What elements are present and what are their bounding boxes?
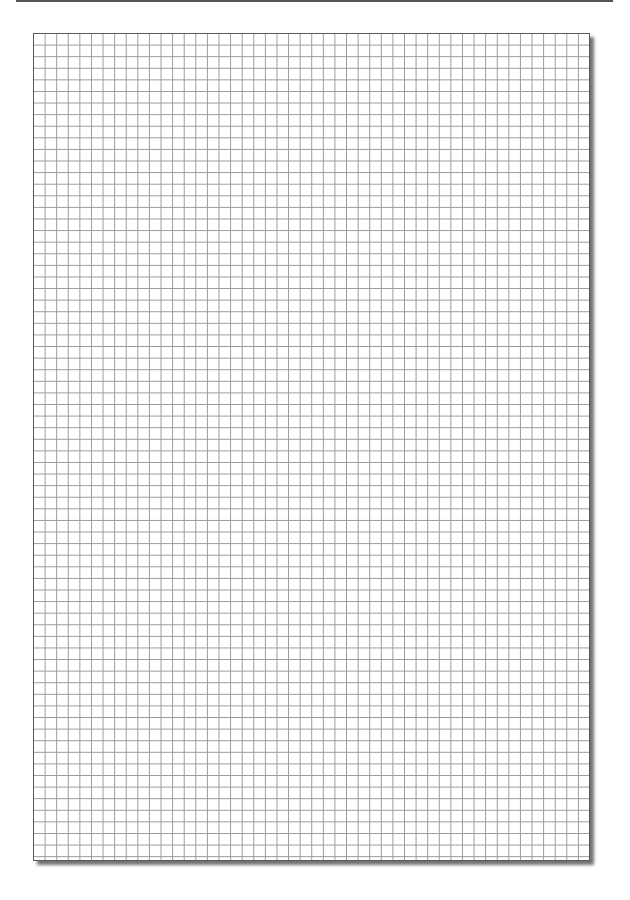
header-rule: [16, 0, 613, 2]
graph-paper-grid: [33, 33, 590, 861]
